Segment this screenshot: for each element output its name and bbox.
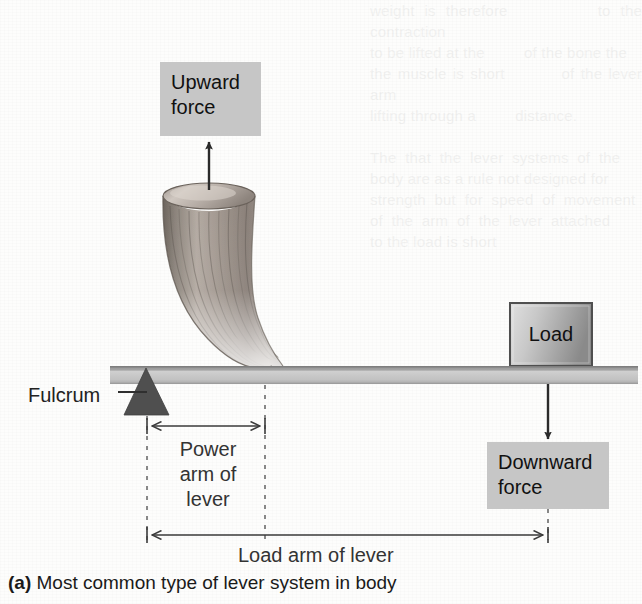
upward-force-label: Upward force <box>160 62 261 136</box>
figure-caption: (a) Most common type of lever system in … <box>8 572 397 594</box>
lever-system-figure: weight is therefore to the contraction t… <box>0 0 642 604</box>
muscle-lower-fade <box>163 196 283 368</box>
fulcrum-label: Fulcrum <box>28 383 100 408</box>
load-block <box>510 303 592 366</box>
diagram-vector-layer <box>0 0 642 604</box>
caption-marker: (a) <box>8 572 31 593</box>
muscle-group <box>163 183 283 368</box>
load-arm-dimension <box>147 527 548 543</box>
downward-force-label: Downward force <box>487 442 609 509</box>
power-arm-label: Power arm of lever <box>148 437 268 512</box>
power-arm-dimension <box>147 418 265 434</box>
caption-text: Most common type of lever system in body <box>37 572 397 593</box>
lever-bar <box>110 366 638 384</box>
load-arm-label: Load arm of lever <box>238 543 394 568</box>
muscle-top-cap-highlight <box>170 186 236 201</box>
